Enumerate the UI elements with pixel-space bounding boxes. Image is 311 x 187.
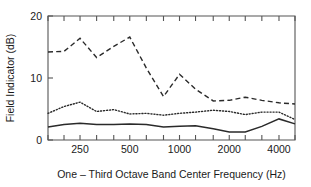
series-middle-curve [48, 102, 295, 119]
chart-figure: 01020 250500100020004000 One – Third Oct… [0, 0, 311, 187]
x-axis-title: One – Third Octave Band Center Frequency… [57, 168, 286, 180]
series-upper-curve [48, 37, 295, 104]
x-tick-label: 1000 [168, 143, 192, 155]
line-chart: 01020 250500100020004000 One – Third Oct… [0, 0, 311, 187]
x-tick-label: 500 [121, 143, 139, 155]
series-lower-curve [48, 119, 295, 132]
x-tick-label: 2000 [218, 143, 242, 155]
y-axis-tick-labels: 01020 [30, 10, 42, 146]
y-tick-label: 10 [30, 72, 42, 84]
y-tick-label: 0 [36, 134, 42, 146]
plot-frame [48, 16, 295, 140]
x-tick-label: 4000 [267, 143, 291, 155]
x-tick-label: 250 [71, 143, 89, 155]
x-axis-ticks [48, 16, 295, 140]
y-axis-title: Field Indicator (dB) [4, 34, 16, 123]
y-axis-ticks [48, 16, 53, 140]
y-tick-label: 20 [30, 10, 42, 22]
x-axis-tick-labels: 250500100020004000 [71, 143, 291, 155]
